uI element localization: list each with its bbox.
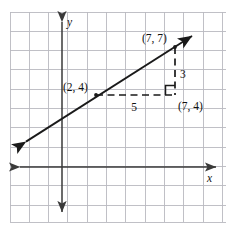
point-marker-7-7 — [173, 45, 177, 49]
coordinate-grid-figure: (7, 7) (2, 4) (7, 4) 5 3 y x — [0, 0, 236, 230]
canvas-background — [0, 0, 236, 230]
point-label-corner: (7, 4) — [178, 100, 203, 113]
run-length-label: 5 — [131, 101, 137, 113]
point-label-upper: (7, 7) — [142, 32, 167, 45]
y-axis-label: y — [66, 16, 73, 29]
coordinate-plane-svg: (7, 7) (2, 4) (7, 4) 5 3 y x — [0, 0, 236, 230]
rise-length-label: 3 — [180, 68, 186, 80]
point-marker-2-4 — [94, 93, 98, 97]
point-label-left: (2, 4) — [63, 81, 88, 94]
x-axis-label: x — [206, 172, 213, 184]
